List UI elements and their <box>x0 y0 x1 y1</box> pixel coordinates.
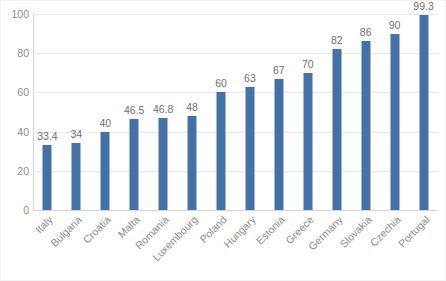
bar-value-label: 67 <box>273 65 285 76</box>
bar-group[interactable]: 86 <box>351 14 380 210</box>
bar-value-label: 34 <box>71 129 83 140</box>
bar-value-label: 99.3 <box>413 1 433 12</box>
bar-group[interactable]: 40 <box>91 14 120 210</box>
bar[interactable] <box>274 79 283 210</box>
bar-group[interactable]: 99.3 <box>409 14 438 210</box>
gridline-0 <box>33 210 438 211</box>
bar[interactable] <box>130 119 139 210</box>
y-tick-label: 100 <box>1 9 29 19</box>
bar-value-label: 63 <box>244 73 256 84</box>
bar-group[interactable]: 67 <box>264 14 293 210</box>
bar[interactable] <box>217 92 226 210</box>
bar-group[interactable]: 82 <box>322 14 351 210</box>
y-tick-label: 80 <box>1 48 29 58</box>
bar[interactable] <box>390 34 399 210</box>
bar-value-label: 86 <box>360 27 372 38</box>
y-tick-label: 0 <box>1 205 29 215</box>
x-tick-slot: Estonia <box>264 212 293 281</box>
bar[interactable] <box>303 73 312 210</box>
bar-group[interactable]: 33.4 <box>33 14 62 210</box>
plot-area: 33.4344046.546.8486063677082869099.3 <box>33 14 438 210</box>
x-axis-tick-labels: ItalyBulgariaCroatiaMaltaRomaniaLuxembou… <box>33 212 438 281</box>
bar-value-label: 33.4 <box>37 131 57 142</box>
bar-group[interactable]: 46.8 <box>149 14 178 210</box>
bar[interactable] <box>332 49 341 210</box>
x-tick-slot: Bulgaria <box>62 212 91 281</box>
bar-chart: 020406080100 33.4344046.546.848606367708… <box>0 0 446 281</box>
y-tick-label: 60 <box>1 87 29 97</box>
bar[interactable] <box>159 118 168 210</box>
bar-value-label: 40 <box>99 118 111 129</box>
y-axis-tick-labels: 020406080100 <box>0 14 29 210</box>
x-tick-slot: Hungary <box>236 212 265 281</box>
bar-value-label: 70 <box>302 59 314 70</box>
bar-group[interactable]: 70 <box>293 14 322 210</box>
bar-group[interactable]: 60 <box>207 14 236 210</box>
bar-group[interactable]: 90 <box>380 14 409 210</box>
bar[interactable] <box>101 132 110 210</box>
bar[interactable] <box>361 41 370 210</box>
bar-value-label: 46.5 <box>124 105 144 116</box>
bar-value-label: 48 <box>186 102 198 113</box>
bar-value-label: 46.8 <box>153 104 173 115</box>
x-tick-slot: Croatia <box>91 212 120 281</box>
bar-group[interactable]: 34 <box>62 14 91 210</box>
x-tick-label: Italy <box>34 214 55 235</box>
bar[interactable] <box>245 87 254 210</box>
bar[interactable] <box>43 145 52 210</box>
bar[interactable] <box>419 15 428 210</box>
bar-value-label: 60 <box>215 78 227 89</box>
bar-group[interactable]: 63 <box>236 14 265 210</box>
bar[interactable] <box>188 116 197 210</box>
x-tick-slot: Luxembourg <box>178 212 207 281</box>
bar[interactable] <box>72 143 81 210</box>
bar-group[interactable]: 46.5 <box>120 14 149 210</box>
bar-value-label: 90 <box>389 20 401 31</box>
x-tick-slot: Portugal <box>409 212 438 281</box>
y-tick-label: 20 <box>1 166 29 176</box>
bar-value-label: 82 <box>331 35 343 46</box>
bar-group[interactable]: 48 <box>178 14 207 210</box>
y-tick-label: 40 <box>1 127 29 137</box>
